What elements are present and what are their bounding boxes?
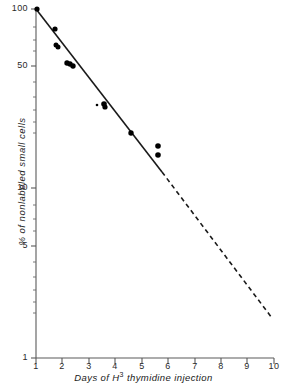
x-tick-label-7: 7: [185, 361, 205, 371]
data-point: [128, 130, 133, 135]
data-point: [96, 104, 99, 107]
data-point: [34, 6, 39, 11]
x-tick-label-8: 8: [211, 361, 231, 371]
y-tick-label-100: 100: [2, 3, 28, 13]
x-tick-label-3: 3: [79, 361, 99, 371]
plot-canvas: [0, 0, 287, 387]
x-tick-label-4: 4: [105, 361, 125, 371]
data-point: [52, 26, 57, 31]
x-tick-label-2: 2: [52, 361, 72, 371]
figure-semilog-decay-plot: 100 50 10 5 1 1 2 3 4 5 6 7 8 9 10 % of …: [0, 0, 287, 387]
x-axis-title: Days of H3 thymidine injection: [0, 371, 287, 383]
x-tick-label-6: 6: [158, 361, 178, 371]
y-axis-title: % of nonlabeled small cells: [16, 117, 27, 247]
x-tick-label-10: 10: [264, 361, 284, 371]
x-axis-title-suffix: thymidine injection: [124, 372, 213, 383]
y-tick-label-1: 1: [2, 352, 28, 362]
x-tick-label-9: 9: [237, 361, 257, 371]
data-point: [155, 152, 161, 158]
data-point: [56, 45, 61, 50]
data-point: [155, 143, 161, 149]
regression-line-solid: [36, 9, 162, 172]
data-point: [102, 104, 107, 109]
x-tick-label-5: 5: [132, 361, 152, 371]
x-tick-label-1: 1: [26, 361, 46, 371]
data-point-group: [34, 6, 160, 157]
y-axis-major-ticks: [31, 9, 36, 358]
data-point: [70, 63, 75, 68]
y-tick-label-50: 50: [2, 60, 28, 70]
x-axis-title-prefix: Days of H: [74, 372, 119, 383]
regression-line-dashed-extrapolation: [162, 172, 272, 318]
